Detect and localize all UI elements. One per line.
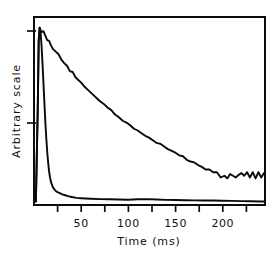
x-tick-label-100: 100 bbox=[117, 217, 140, 230]
x-tick-label-150: 150 bbox=[164, 217, 187, 230]
y-axis-title: Arbitrary scale bbox=[10, 64, 23, 158]
decay-curves-figure: 50 100 150 200 Time (ms) Arbitrary scale bbox=[0, 0, 278, 253]
x-tick-label-200: 200 bbox=[211, 217, 234, 230]
chart-canvas: 50 100 150 200 Time (ms) Arbitrary scale bbox=[0, 0, 278, 253]
x-tick-label-50: 50 bbox=[74, 217, 89, 230]
x-axis-title: Time (ms) bbox=[116, 235, 181, 248]
